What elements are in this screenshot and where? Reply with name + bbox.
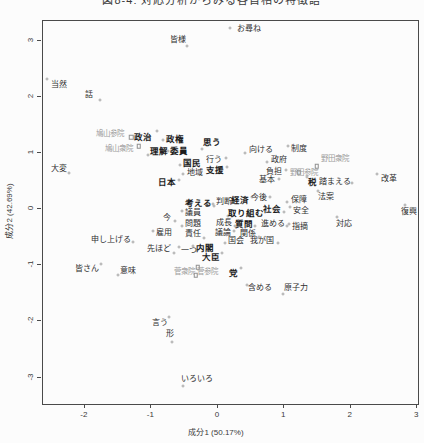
word-label: お尋ね [237,25,261,33]
word-marker [170,340,173,343]
word-marker [211,203,214,206]
word-label: 基本 [259,176,275,184]
word-marker [200,148,203,151]
word-label: 成長 [216,219,232,227]
word-marker [224,157,227,160]
document-label: 野田衆院 [321,155,349,163]
y-tick-mark [37,208,41,209]
x-tick-mark [84,404,85,408]
y-tick-label: 3 [26,37,35,41]
x-tick-mark [217,404,218,408]
document-label: 鳩山参院 [96,131,124,139]
word-label: 党 [229,269,238,278]
document-label: 鳩山衆院 [105,145,133,153]
word-marker [253,225,256,228]
word-marker [178,164,181,167]
word-label: 復興 [401,208,417,216]
word-label: 雇用 [156,229,172,237]
correspondence-analysis-figure: 図8-4: 対応分析からみる各首相の特徴語 お尋ね皆様当然話鳩山参院政治鳩山衆院… [0,0,424,443]
word-marker [244,152,247,155]
word-label: 対応 [336,220,352,228]
word-label: 質問 [235,220,253,229]
word-marker [172,252,175,255]
x-tick-mark [350,404,351,408]
word-label: 我が国 [250,237,274,245]
x-axis-label: 成分1 (50.17%) [188,426,243,437]
word-label: 行う [206,156,222,164]
x-tick-mark [283,404,284,408]
word-marker [284,169,287,172]
word-label: 国民 [183,159,201,168]
y-tick-label: -2 [26,317,35,324]
word-marker [99,263,102,266]
x-tick-mark [150,404,151,408]
word-label: 皆様 [170,36,186,44]
word-label: 意味 [120,267,136,275]
document-label: 菅衆院 [174,268,195,276]
y-tick-mark [37,264,41,265]
word-label: 大臣 [202,253,220,262]
word-marker [180,210,183,213]
word-label: 制度 [291,145,307,153]
word-marker [220,251,223,254]
word-label: 判断 [216,198,232,206]
x-tick-mark [416,404,417,408]
word-marker [202,236,205,239]
word-label: 思う [203,138,221,147]
document-label: 菅参院 [197,268,218,276]
word-label: 議員 [185,209,201,217]
word-marker [185,44,188,47]
x-tick-label: 2 [348,410,352,419]
x-tick-label: 1 [281,410,285,419]
word-marker [225,166,228,169]
y-axis-label: 成分2 (42.69%) [3,183,14,238]
word-marker [180,225,183,228]
word-label: 含める [248,284,272,292]
word-label: 踏まえる [319,178,351,186]
word-label: 社会 [263,205,281,214]
word-label: 問題 [185,220,201,228]
word-marker [98,99,101,102]
word-label: 話 [85,91,93,99]
word-label: 進める [261,220,285,228]
word-label: いろいろ [181,375,213,383]
document-label: 野田参院 [290,169,318,177]
word-label: 改革 [381,175,397,183]
x-tick-label: 0 [215,410,219,419]
plot-area: お尋ね皆様当然話鳩山参院政治鳩山衆院政権思う理解委員国民行う地域支援大変日本向け… [42,20,419,405]
y-tick-mark [37,96,41,97]
word-label: 経済 [231,196,249,205]
word-label: 税 [308,178,317,187]
word-label: 今後 [251,194,267,202]
word-marker [161,138,164,141]
word-marker [276,242,279,245]
y-tick-mark [37,320,41,321]
word-marker [152,230,155,233]
y-tick-mark [37,152,41,153]
y-tick-label: 1 [26,150,35,154]
word-marker [131,241,134,244]
word-label: 申し上げる [91,236,131,244]
word-marker [155,130,158,133]
word-marker [269,195,272,198]
word-marker [375,173,378,176]
word-marker [286,145,289,148]
word-label: 向ける [249,146,273,154]
word-marker [287,223,290,226]
word-label: 国会 [228,237,244,245]
word-label: 安全 [293,207,309,215]
word-marker [181,173,184,176]
word-marker [278,177,281,180]
y-tick-mark [37,377,41,378]
word-marker [67,172,70,175]
document-marker [129,135,134,140]
word-marker [281,293,284,296]
word-label: 考える [185,199,212,208]
word-marker [223,242,226,245]
word-label: 先ほど [147,245,171,253]
word-label: 日本 [158,178,176,187]
word-label: 委員 [170,147,188,156]
word-marker [45,78,48,81]
x-tick-label: -2 [80,410,87,419]
y-tick-label: 0 [26,206,35,210]
